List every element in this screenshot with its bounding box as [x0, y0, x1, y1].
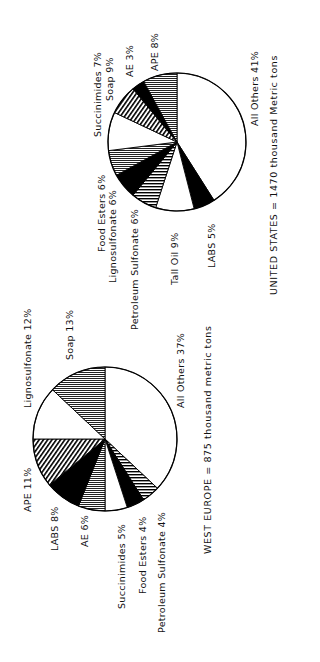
us-label-soap: Soap 9% — [105, 57, 115, 101]
us-label-all-others: All Others 41% — [250, 51, 260, 126]
us-label-ape: APE 8% — [150, 33, 160, 71]
we-label-ae: AE 6% — [80, 515, 90, 547]
us-label-tall-oil: Tall Oil 9% — [170, 233, 180, 286]
us-label-succinimides: Succinimides 7% — [93, 52, 103, 137]
we-caption: WEST EUROPE = 875 thousand metric tons — [203, 325, 213, 554]
us-label-labs: LABS 5% — [207, 223, 217, 268]
us-label-petroleum-sulfonate: Petroleum Sulfonate 6% — [130, 209, 140, 330]
we-label-ape: APE 11% — [23, 468, 33, 512]
us-label-ae: AE 3% — [125, 45, 135, 77]
us-label-food-esters: Food Esters 6% — [97, 175, 107, 252]
we-label-lignosulfonate: Lignosulfonate 12% — [23, 308, 33, 408]
pie-west-europe — [33, 367, 177, 511]
we-label-succinimides: Succinimides 5% — [117, 524, 127, 609]
we-label-food-esters: Food Esters 4% — [138, 517, 148, 594]
us-label-lignosulfonate: Lignosulfonate 6% — [108, 190, 118, 283]
pie-united-states — [108, 73, 246, 211]
we-label-petroleum-sulfonate: Petroleum Sulfonate 4% — [157, 512, 167, 633]
we-label-soap: Soap 13% — [65, 310, 75, 360]
we-label-labs: LABS 8% — [50, 506, 60, 551]
we-label-all-others: All Others 37% — [176, 333, 186, 408]
us-caption: UNITED STATES = 1470 thousand Metric ton… — [269, 55, 279, 295]
